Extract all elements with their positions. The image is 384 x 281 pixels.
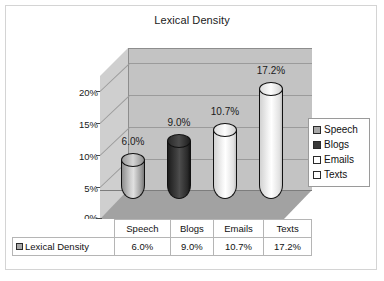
bar-blogs-body (167, 141, 191, 199)
chart-data-table: Speech Blogs Emails Texts Lexical Densit… (12, 219, 312, 256)
bar-label-emails: 10.7% (198, 106, 252, 117)
gridline-15 (129, 95, 312, 96)
gridline-20 (129, 63, 312, 64)
table-swatch-icon (16, 243, 23, 250)
legend-swatch-speech-icon (313, 126, 321, 134)
table-row: Lexical Density 6.0% 9.0% 10.7% 17.2% (13, 238, 312, 256)
y-axis-label-15: 15% (58, 119, 98, 130)
table-corner-cell (13, 220, 115, 238)
table-header-speech: Speech (115, 220, 171, 238)
table-header-emails: Emails (213, 220, 263, 238)
table-cell-speech: 6.0% (115, 238, 171, 256)
table-header-blogs: Blogs (170, 220, 213, 238)
y-axis-label-5: 5% (58, 183, 98, 194)
legend-item-blogs[interactable]: Blogs (313, 137, 365, 152)
bar-label-blogs: 9.0% (154, 117, 204, 128)
table-series-name-cell: Lexical Density (13, 238, 115, 256)
legend-label-speech: Speech (324, 124, 358, 135)
y-axis-tick-5 (96, 187, 100, 188)
bar-texts-body (259, 89, 283, 199)
y-axis-label-20: 20% (58, 87, 98, 98)
plot-area: 6.0% 9.0% 10.7% 17.2% (100, 48, 312, 219)
bar-emails-top (213, 123, 237, 137)
table-header-texts: Texts (264, 220, 312, 238)
chart-legend: Speech Blogs Emails Texts (308, 118, 370, 187)
table-header-row: Speech Blogs Emails Texts (13, 220, 312, 238)
legend-label-blogs: Blogs (324, 139, 349, 150)
y-axis-label-10: 10% (58, 151, 98, 162)
bar-label-texts: 17.2% (244, 65, 298, 76)
bar-blogs[interactable] (167, 134, 191, 199)
table-cell-blogs: 9.0% (170, 238, 213, 256)
bar-texts[interactable] (259, 82, 283, 199)
legend-swatch-blogs-icon (313, 141, 321, 149)
legend-swatch-texts-icon (313, 171, 321, 179)
y-axis-tick-15 (96, 123, 100, 124)
bar-blogs-top (167, 134, 191, 148)
legend-label-emails: Emails (324, 154, 354, 165)
bar-speech-top (121, 153, 145, 167)
legend-swatch-emails-icon (313, 156, 321, 164)
y-axis-tick-20 (96, 91, 100, 92)
bar-speech[interactable] (121, 153, 145, 199)
table-cell-texts: 17.2% (264, 238, 312, 256)
chart-container: Lexical Density 6.0% 9.0% (0, 0, 384, 281)
legend-item-emails[interactable]: Emails (313, 152, 365, 167)
bar-texts-top (259, 82, 283, 96)
table-series-label: Lexical Density (25, 241, 89, 252)
bar-emails-body (213, 130, 237, 199)
legend-item-speech[interactable]: Speech (313, 122, 365, 137)
legend-label-texts: Texts (324, 169, 347, 180)
chart-title: Lexical Density (0, 14, 384, 26)
legend-item-texts[interactable]: Texts (313, 167, 365, 182)
bar-emails[interactable] (213, 123, 237, 199)
bar-label-speech: 6.0% (108, 136, 158, 147)
y-axis-tick-10 (96, 155, 100, 156)
table-cell-emails: 10.7% (213, 238, 263, 256)
